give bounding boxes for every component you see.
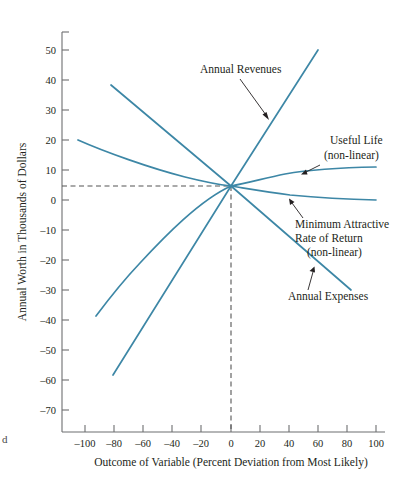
y-tick-label: 0 — [51, 195, 56, 206]
x-tick-label: 80 — [342, 438, 353, 449]
x-tick-label: 100 — [368, 438, 384, 449]
annotation-label-line: Useful Life — [330, 134, 383, 146]
annotation-label-line: (non-linear) — [324, 149, 379, 162]
x-axis-tick-labels: –100 –80 –60 –40 –20 0 20 40 60 80 100 — [74, 438, 384, 449]
base-case-guides — [62, 186, 231, 432]
y-tick-label: 30 — [46, 105, 57, 116]
annotation-annual-expenses: Annual Expenses — [288, 267, 369, 304]
annotation-label-line: Annual Expenses — [288, 290, 369, 303]
annotation-label-line: Annual Revenues — [200, 63, 282, 75]
y-tick-label: 20 — [46, 135, 57, 146]
y-tick-label: –30 — [39, 285, 56, 296]
y-axis-ticks — [62, 50, 69, 410]
y-tick-label: –70 — [39, 405, 56, 416]
x-tick-label: –40 — [163, 438, 180, 449]
x-tick-label: –80 — [105, 438, 122, 449]
annotation-label-line: Minimum Attractive — [295, 218, 389, 230]
y-tick-label: –40 — [39, 315, 56, 326]
x-tick-label: 60 — [313, 438, 324, 449]
annotation-label-line: (non-linear) — [307, 246, 362, 259]
y-tick-label: 50 — [46, 45, 57, 56]
y-axis-title: Annual Worth in Thousands of Dollars — [16, 142, 28, 321]
x-tick-label: –20 — [192, 438, 209, 449]
annotation-annual-revenues: Annual Revenues — [200, 63, 282, 120]
sensitivity-spider-chart: d 50 40 30 — [0, 0, 407, 492]
annotation-label-line: Rate of Return — [295, 232, 363, 244]
x-tick-label: –100 — [74, 438, 96, 449]
x-tick-label: 0 — [228, 438, 233, 449]
y-tick-label: –10 — [39, 225, 56, 236]
x-axis-title: Outcome of Variable (Percent Deviation f… — [94, 456, 368, 469]
y-tick-label: 10 — [46, 165, 57, 176]
y-tick-label: 40 — [46, 75, 57, 86]
x-tick-label: –60 — [134, 438, 151, 449]
series-line-useful-life — [78, 140, 376, 186]
y-tick-label: –20 — [39, 255, 56, 266]
series-line-annual-revenues — [113, 50, 318, 375]
y-axis-tick-labels: 50 40 30 20 10 0 –10 –20 –30 –40 –50 –60… — [39, 45, 56, 416]
x-tick-label: 20 — [255, 438, 266, 449]
x-tick-label: 40 — [284, 438, 295, 449]
y-tick-label: –50 — [39, 345, 56, 356]
margin-stray-mark: d — [2, 433, 8, 445]
y-tick-label: –60 — [39, 375, 56, 386]
